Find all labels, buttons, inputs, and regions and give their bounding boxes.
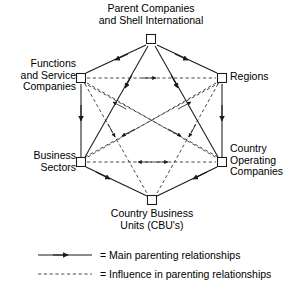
node-cbu[interactable] bbox=[148, 196, 157, 205]
arrowhead-sectors-cbu bbox=[96, 172, 110, 179]
arrowhead-regions-sectors bbox=[122, 129, 135, 136]
influence-edges-group bbox=[84, 78, 219, 195]
node-functions[interactable] bbox=[77, 74, 86, 83]
arrowhead-countryops-cbu bbox=[193, 172, 207, 179]
legend-samples-group bbox=[38, 255, 92, 274]
arrowhead-regions-cbu bbox=[189, 124, 196, 137]
node-countryops[interactable] bbox=[218, 158, 227, 167]
legend-label-main: = Main parenting relationships bbox=[100, 249, 240, 261]
node-label-functions: Functions and Service Companies bbox=[4, 58, 76, 93]
node-label-regions: Regions bbox=[230, 71, 302, 83]
nodes-group bbox=[77, 35, 227, 205]
node-regions[interactable] bbox=[218, 74, 227, 83]
node-label-countryops: Country Operating Companies bbox=[230, 143, 304, 178]
node-sectors[interactable] bbox=[77, 158, 86, 167]
main-edge-countryops-cbu bbox=[157, 167, 217, 196]
main-edge-parent-sectors bbox=[85, 46, 148, 157]
main-arrowheads-group bbox=[81, 54, 222, 179]
node-label-parent: Parent Companies and Shell International bbox=[66, 3, 236, 26]
diagram-root: Parent Companies and Shell International… bbox=[0, 0, 305, 295]
arrowhead-parent-countryops bbox=[171, 75, 178, 88]
node-parent[interactable] bbox=[147, 35, 156, 44]
arrowhead-functions-countryops bbox=[168, 129, 181, 136]
arrowhead-parent-regions bbox=[175, 54, 188, 60]
node-label-cbu: Country Business Units (CBU's) bbox=[82, 208, 222, 231]
arrowhead-functions-cbu bbox=[108, 124, 115, 137]
arrowhead-parent-sectors bbox=[125, 75, 132, 88]
node-label-sectors: Business Sectors bbox=[4, 150, 76, 173]
main-edge-sectors-cbu bbox=[86, 167, 147, 196]
legend-label-influence: = Influence in parenting relationships bbox=[100, 268, 271, 280]
arrowhead-parent-functions bbox=[115, 54, 128, 60]
